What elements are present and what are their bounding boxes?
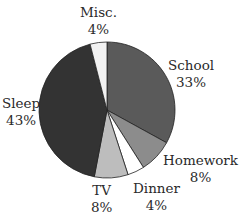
label-tv: TV 8%	[91, 182, 112, 216]
label-dinner-name: Dinner	[133, 180, 180, 197]
label-sleep-name: Sleep	[2, 95, 40, 112]
label-sleep-pct: 43%	[2, 112, 40, 129]
label-misc: Misc. 4%	[80, 4, 117, 38]
label-sleep: Sleep 43%	[2, 95, 40, 129]
label-school-name: School	[168, 57, 214, 74]
label-misc-pct: 4%	[80, 21, 117, 38]
label-homework-name: Homework	[163, 152, 238, 169]
label-tv-pct: 8%	[91, 199, 112, 216]
label-school: School 33%	[168, 57, 214, 91]
label-dinner: Dinner 4%	[133, 180, 180, 214]
label-dinner-pct: 4%	[133, 197, 180, 214]
label-school-pct: 33%	[168, 74, 214, 91]
label-tv-name: TV	[91, 182, 112, 199]
label-misc-name: Misc.	[80, 4, 117, 21]
pie-chart: School 33% Homework 8% Dinner 4% TV 8% S…	[0, 0, 242, 217]
